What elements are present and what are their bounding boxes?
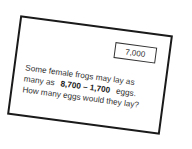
answer-value: 7,000 <box>125 47 146 59</box>
answer-box[interactable]: 7,000 <box>113 42 157 63</box>
word-problem-text: Some female frogs may lay as many as8,70… <box>22 62 165 113</box>
problem-card: 7,000 Some female frogs may lay as many … <box>7 15 173 134</box>
